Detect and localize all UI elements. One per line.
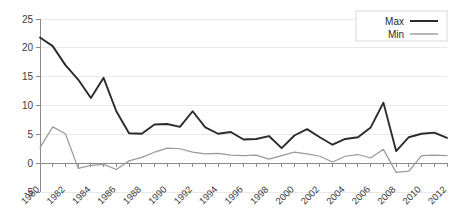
x-tick-label: 2010 bbox=[400, 184, 423, 207]
line-chart: -505101520251980198219841986198819901992… bbox=[0, 0, 453, 223]
x-tick-label: 1982 bbox=[44, 184, 67, 207]
x-tick-label: 1986 bbox=[95, 184, 118, 207]
y-tick-label: 25 bbox=[22, 14, 34, 25]
x-tick-label: 1998 bbox=[248, 184, 271, 207]
x-tick-label: 1980 bbox=[19, 184, 42, 207]
x-tick-label: 1996 bbox=[222, 184, 245, 207]
y-tick-label: 0 bbox=[27, 158, 33, 169]
x-tick-label: 1990 bbox=[146, 184, 169, 207]
x-tick-label: 2012 bbox=[426, 184, 449, 207]
x-tick-label: 2006 bbox=[349, 184, 372, 207]
y-tick-label: 10 bbox=[22, 100, 34, 111]
x-tick-label: 2004 bbox=[324, 184, 347, 207]
legend-label-min: Min bbox=[388, 29, 404, 40]
x-tick-label: 1992 bbox=[171, 184, 194, 207]
x-tick-label: 1984 bbox=[70, 184, 93, 207]
chart-canvas: -505101520251980198219841986198819901992… bbox=[0, 0, 453, 223]
legend-label-max: Max bbox=[385, 16, 404, 27]
y-tick-label: 15 bbox=[22, 71, 34, 82]
y-tick-label: 5 bbox=[27, 129, 33, 140]
y-tick-label: 20 bbox=[22, 42, 34, 53]
x-tick-label: 1988 bbox=[120, 184, 143, 207]
x-tick-label: 2002 bbox=[298, 184, 321, 207]
x-tick-label: 1994 bbox=[197, 184, 220, 207]
x-tick-label: 2000 bbox=[273, 184, 296, 207]
x-tick-label: 2008 bbox=[375, 184, 398, 207]
